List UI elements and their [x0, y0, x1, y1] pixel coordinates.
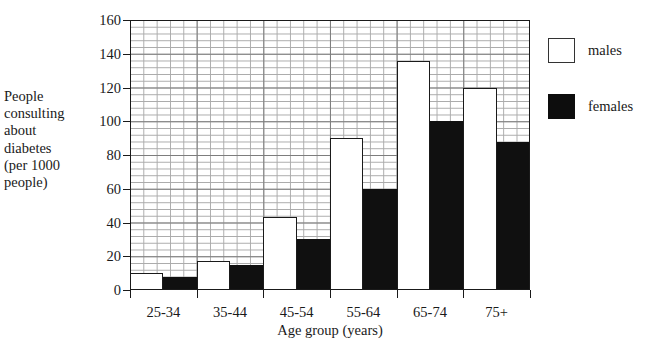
x-tick-label-55-64: 55-64: [346, 304, 380, 321]
bar-females-75+: [497, 142, 530, 291]
y-tick-label: 120: [99, 79, 121, 96]
legend-item-females: females: [548, 94, 633, 119]
y-tick-mark: [123, 88, 130, 89]
x-tick-mark-end: [530, 290, 531, 298]
y-tick-label: 140: [99, 45, 121, 62]
legend-item-males: males: [548, 38, 633, 63]
bar-males-35-44: [197, 261, 230, 290]
y-tick-mark: [123, 121, 130, 122]
bar-females-55-64: [363, 189, 396, 290]
y-tick-label: 80: [107, 147, 122, 164]
y-tick-label: 0: [114, 282, 121, 299]
x-tick-mark-35-44: [197, 290, 198, 298]
legend-swatch-females-icon: [548, 94, 575, 119]
bar-females-25-34: [163, 277, 196, 291]
y-axis-caption: People consulting about diabetes (per 10…: [4, 88, 96, 191]
axis-right-line: [529, 20, 530, 290]
axis-top-line: [130, 20, 530, 21]
x-axis-caption: Age group (years): [130, 322, 530, 339]
bar-males-55-64: [330, 138, 363, 290]
x-tick-label-25-34: 25-34: [146, 304, 180, 321]
legend-swatch-males-icon: [548, 38, 575, 63]
y-tick-mark: [123, 155, 130, 156]
legend-label-males: males: [588, 42, 622, 59]
axis-left-line: [130, 20, 131, 290]
legend-label-females: females: [588, 98, 633, 115]
plot-area: 020406080100120140160 25-3435-4445-5455-…: [130, 20, 530, 290]
bar-males-25-34: [130, 273, 163, 290]
y-tick-label: 100: [99, 113, 121, 130]
x-tick-label-45-54: 45-54: [280, 304, 314, 321]
bar-males-65-74: [397, 61, 430, 291]
y-tick-mark: [123, 54, 130, 55]
y-tick-mark: [123, 290, 130, 291]
x-tick-mark-55-64: [330, 290, 331, 298]
bar-males-45-54: [263, 217, 296, 290]
bar-females-35-44: [230, 265, 263, 290]
y-tick-mark: [123, 256, 130, 257]
x-tick-mark-65-74: [397, 290, 398, 298]
y-tick-mark: [123, 223, 130, 224]
x-tick-mark-75+: [463, 290, 464, 298]
x-tick-label-75+: 75+: [485, 304, 508, 321]
y-tick-label: 160: [99, 12, 121, 29]
x-tick-mark-25-34: [130, 290, 131, 298]
y-tick-label: 40: [107, 214, 122, 231]
bar-females-45-54: [297, 239, 330, 290]
chart-root: People consulting about diabetes (per 10…: [0, 0, 648, 355]
y-tick-mark: [123, 189, 130, 190]
x-tick-label-35-44: 35-44: [213, 304, 247, 321]
x-tick-label-65-74: 65-74: [413, 304, 447, 321]
y-tick-mark: [123, 20, 130, 21]
legend: males females: [548, 38, 633, 150]
bar-females-65-74: [430, 121, 463, 290]
y-tick-label: 20: [107, 248, 122, 265]
y-tick-label: 60: [107, 180, 122, 197]
bar-males-75+: [463, 88, 496, 291]
x-tick-mark-45-54: [263, 290, 264, 298]
